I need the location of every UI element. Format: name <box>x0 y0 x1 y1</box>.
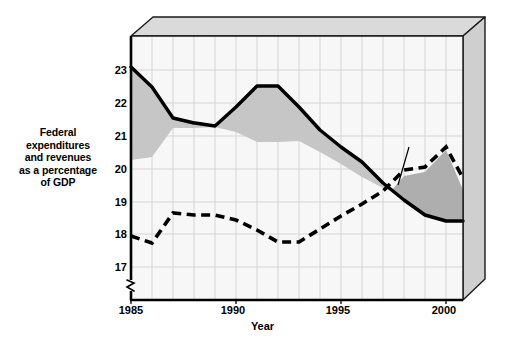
plot-background <box>131 36 463 300</box>
frame-top-bevel <box>131 17 485 36</box>
frame-right-bevel <box>463 17 485 300</box>
plot-canvas <box>0 0 525 344</box>
chart-figure: Federal expenditures and revenues as a p… <box>0 0 525 344</box>
